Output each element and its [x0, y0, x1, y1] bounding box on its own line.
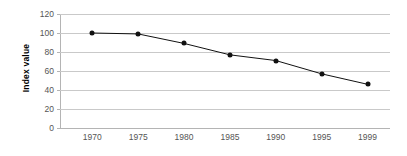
y-tick-mark: [57, 128, 60, 129]
data-point-marker: [365, 82, 370, 87]
y-tick-label: 100: [24, 28, 54, 38]
x-tick-label: 1975: [118, 132, 158, 142]
y-tick-label: 20: [24, 104, 54, 114]
x-tick-label: 1970: [72, 132, 112, 142]
y-tick-label: 0: [24, 123, 54, 133]
x-tick-label: 1985: [210, 132, 250, 142]
y-tick-label: 80: [24, 47, 54, 57]
data-point-marker: [182, 41, 187, 46]
x-tick-label: 1980: [164, 132, 204, 142]
data-point-marker: [90, 31, 95, 36]
y-tick-label: 40: [24, 85, 54, 95]
y-tick-label: 60: [24, 66, 54, 76]
line-chart: Index value 0204060801001201970197519801…: [0, 0, 407, 156]
series-line: [60, 14, 390, 128]
plot-area: 0204060801001201970197519801985199019951…: [60, 14, 390, 128]
x-tick-label: 1995: [302, 132, 342, 142]
y-gridline: [60, 128, 390, 129]
y-tick-label: 120: [24, 9, 54, 19]
data-point-marker: [273, 58, 278, 63]
x-tick-label: 1990: [256, 132, 296, 142]
data-point-marker: [136, 31, 141, 36]
data-point-marker: [227, 52, 232, 57]
x-tick-label: 1999: [348, 132, 388, 142]
data-point-marker: [319, 71, 324, 76]
